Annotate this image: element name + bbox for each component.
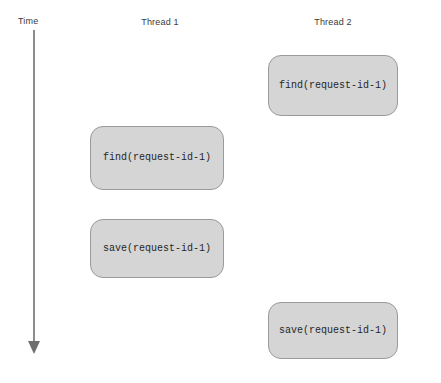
column-header-thread-2: Thread 2 — [314, 17, 352, 28]
column-header-thread-1: Thread 1 — [141, 17, 179, 28]
operation-box-thread-1-find: find(request-id-1) — [90, 126, 224, 190]
time-axis-label: Time — [18, 16, 38, 27]
thread-timeline-diagram: Time Thread 1 Thread 2 find(request-id-1… — [0, 0, 441, 383]
operation-label: find(request-id-1) — [279, 80, 387, 92]
operation-box-thread-2-find: find(request-id-1) — [268, 55, 398, 116]
operation-box-thread-2-save: save(request-id-1) — [268, 302, 398, 359]
operation-box-thread-1-save: save(request-id-1) — [90, 219, 224, 278]
operation-label: find(request-id-1) — [103, 152, 211, 164]
time-axis-arrowhead-icon — [28, 341, 40, 354]
operation-label: save(request-id-1) — [279, 325, 387, 337]
operation-label: save(request-id-1) — [103, 243, 211, 255]
time-axis-line — [33, 30, 35, 343]
